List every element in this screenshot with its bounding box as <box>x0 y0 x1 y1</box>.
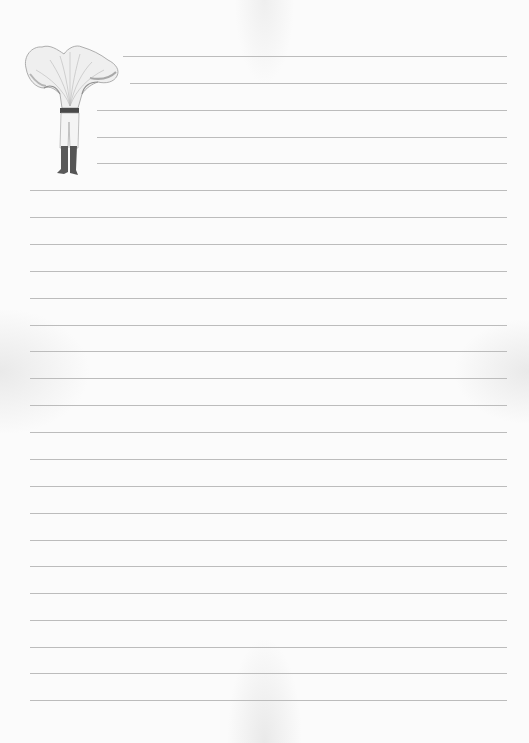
lined-paper <box>0 0 529 743</box>
ruled-line <box>30 566 507 567</box>
ruled-line <box>30 700 507 701</box>
ruled-line <box>97 137 507 138</box>
ruled-line <box>30 432 507 433</box>
ruled-line <box>30 351 507 352</box>
ruled-line <box>30 325 507 326</box>
ruled-line <box>30 540 507 541</box>
ruled-line <box>30 405 507 406</box>
ruled-line <box>30 673 507 674</box>
ruled-line <box>97 163 507 164</box>
ruled-line <box>123 56 507 57</box>
ruled-line <box>30 647 507 648</box>
ruled-line <box>30 459 507 460</box>
ruled-line <box>30 593 507 594</box>
ruled-line <box>30 190 507 191</box>
ruled-line <box>30 486 507 487</box>
chanterelle-figure-illustration <box>20 38 124 180</box>
ruled-line <box>97 110 507 111</box>
ruled-line <box>30 378 507 379</box>
ruled-line <box>30 620 507 621</box>
ruled-line <box>30 244 507 245</box>
ruled-line <box>30 298 507 299</box>
ruled-line <box>30 217 507 218</box>
ruled-line <box>30 271 507 272</box>
ruled-line <box>130 83 507 84</box>
ruled-line <box>30 513 507 514</box>
